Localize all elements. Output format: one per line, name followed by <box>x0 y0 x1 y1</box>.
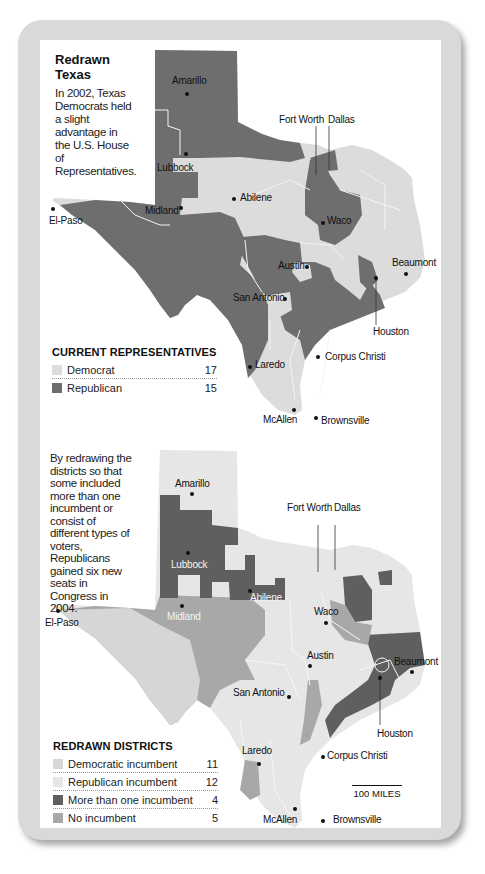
legend-heading: CURRENT REPRESENTATIVES <box>52 346 217 358</box>
city-dot-amarillo <box>190 492 194 496</box>
city-label-amarillo: Amarillo <box>172 75 207 86</box>
city-dot-lubbock <box>184 152 188 156</box>
scale-bar-line <box>352 785 402 786</box>
city-dot-corpus-christi <box>321 755 325 759</box>
swatch-republican-incumbent <box>53 777 63 787</box>
city-dot-mcallen <box>292 408 296 412</box>
swatch-no-incumbent <box>53 813 63 823</box>
legend-row-republican-incumbent: Republican incumbent 12 <box>53 773 218 791</box>
legend-label: More than one incumbent <box>68 794 202 806</box>
city-dot-lubbock <box>186 551 190 555</box>
city-dot-midland <box>179 206 183 210</box>
city-dot-houston <box>374 276 378 280</box>
city-label-el-paso: El-Paso <box>45 617 79 628</box>
city-dot-waco <box>321 221 325 225</box>
legend-heading: REDRAWN DISTRICTS <box>53 740 218 752</box>
city-label-lubbock: Lubbock <box>157 162 193 173</box>
legend-count: 5 <box>202 812 218 824</box>
district-noinc-south <box>240 760 260 800</box>
city-label-abilene: Abilene <box>250 592 282 603</box>
swatch-democratic-incumbent <box>53 759 63 769</box>
intro-text: In 2002, Texas Democrats held a slight a… <box>55 87 135 178</box>
legend-count: 12 <box>202 776 218 788</box>
legend-label: Republican incumbent <box>68 776 202 788</box>
legend-label: No incumbent <box>68 812 202 824</box>
city-dot-laredo <box>248 365 252 369</box>
city-dot-beaumont <box>410 670 414 674</box>
city-dot-austin <box>305 265 309 269</box>
page-title: Redrawn Texas <box>55 52 135 82</box>
city-label-houston: Houston <box>377 728 413 739</box>
city-dot-brownsville <box>314 416 318 420</box>
legend-label: Democrat <box>67 364 201 376</box>
city-dot-corpus-christi <box>316 355 320 359</box>
legend-count: 17 <box>201 364 217 376</box>
city-label-waco: Waco <box>314 606 338 617</box>
city-label-brownsville: Brownsville <box>321 415 369 426</box>
city-label-waco: Waco <box>327 215 351 226</box>
city-dot-austin <box>308 664 312 668</box>
city-dot-waco <box>324 621 328 625</box>
legend-label: Republican <box>67 382 201 394</box>
city-label-fort-worth: Fort Worth <box>279 114 324 125</box>
city-label-laredo: Laredo <box>255 359 285 370</box>
swatch-democrat <box>52 365 62 375</box>
city-label-beaumont: Beaumont <box>392 257 436 268</box>
city-label-austin: Austin <box>278 260 305 271</box>
city-label-beaumont: Beaumont <box>394 656 438 667</box>
city-label-dallas: Dallas <box>334 502 361 513</box>
city-label-corpus-christi: Corpus Christi <box>327 750 388 761</box>
city-dot-amarillo <box>185 92 189 96</box>
legend-count: 15 <box>201 382 217 394</box>
legend-count: 11 <box>202 758 218 770</box>
redraw-explanation-text: By redrawing the districts so that some … <box>50 452 132 615</box>
legend-count: 4 <box>202 794 218 806</box>
swatch-more-than-one-incumbent <box>53 795 63 805</box>
city-label-dallas: Dallas <box>328 114 355 125</box>
city-dot-el-paso <box>51 207 55 211</box>
city-dot-mcallen <box>293 807 297 811</box>
city-label-san-antonio: San Antonio <box>233 292 285 303</box>
city-label-brownsville: Brownsville <box>333 814 381 825</box>
scale-bar: 100 MILES <box>352 785 402 799</box>
legend-row-democrat: Democrat 17 <box>52 361 217 379</box>
swatch-republican <box>52 383 62 393</box>
city-label-el-paso: El-Paso <box>49 215 83 226</box>
city-label-houston: Houston <box>373 326 409 337</box>
city-label-corpus-christi: Corpus Christi <box>325 351 386 362</box>
city-label-austin: Austin <box>307 650 334 661</box>
city-label-san-antonio: San Antonio <box>233 687 285 698</box>
city-dot-midland <box>180 604 184 608</box>
city-dot-beaumont <box>404 272 408 276</box>
legend-current-representatives: CURRENT REPRESENTATIVES Democrat 17 Repu… <box>52 346 217 396</box>
city-dot-san-antonio <box>283 297 287 301</box>
city-dot-laredo <box>257 762 261 766</box>
district-multi-ne <box>378 570 392 585</box>
city-label-abilene: Abilene <box>240 192 272 203</box>
legend-redrawn-districts: REDRAWN DISTRICTS Democratic incumbent 1… <box>53 740 218 826</box>
city-label-amarillo: Amarillo <box>175 478 210 489</box>
city-label-fort-worth: Fort Worth <box>287 502 332 513</box>
city-label-mcallen: McAllen <box>263 814 297 825</box>
legend-row-republican: Republican 15 <box>52 379 217 396</box>
city-dot-brownsville <box>321 819 325 823</box>
city-label-lubbock: Lubbock <box>171 559 207 570</box>
legend-row-more-than-one-incumbent: More than one incumbent 4 <box>53 791 218 809</box>
legend-row-no-incumbent: No incumbent 5 <box>53 809 218 826</box>
city-label-midland: Midland <box>167 611 201 622</box>
city-label-laredo: Laredo <box>242 745 272 756</box>
city-dot-el-paso <box>56 609 60 613</box>
city-label-mcallen: McAllen <box>263 414 297 425</box>
city-label-midland: Midland <box>145 205 179 216</box>
city-dot-abilene <box>232 197 236 201</box>
city-dot-san-antonio <box>287 695 291 699</box>
legend-row-democratic-incumbent: Democratic incumbent 11 <box>53 755 218 773</box>
scale-label: 100 MILES <box>354 788 401 799</box>
city-dot-houston <box>378 676 382 680</box>
legend-label: Democratic incumbent <box>68 758 202 770</box>
